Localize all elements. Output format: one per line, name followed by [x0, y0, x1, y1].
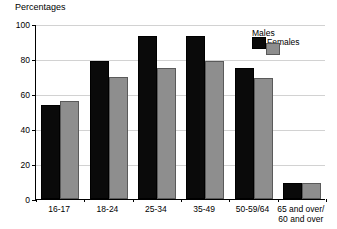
x-tick-label: 50-59/64	[228, 204, 276, 214]
y-tick-label: 40	[21, 126, 30, 135]
bar-males-0	[41, 105, 60, 200]
bar-females-3	[205, 61, 224, 199]
bar-group	[186, 25, 224, 199]
bar-females-1	[109, 77, 128, 200]
bar-females-0	[60, 101, 79, 199]
bar-chart: Percentages 020406080100 16-1718-2425-34…	[0, 0, 337, 229]
x-tick-label: 65 and over/ 60 and over	[277, 204, 325, 224]
bar-group	[41, 25, 79, 199]
bar-group	[138, 25, 176, 199]
x-tick-label: 18-24	[83, 204, 131, 214]
x-tick-label: 16-17	[35, 204, 83, 214]
x-tick-mark	[84, 199, 85, 202]
x-tick-mark	[36, 199, 37, 202]
bar-males-2	[138, 36, 157, 199]
bar-group	[90, 25, 128, 199]
bar-males-1	[90, 61, 109, 199]
chart-legend: Males Females	[252, 28, 330, 54]
bar-females-2	[157, 68, 176, 199]
y-tick-label: 80	[21, 56, 30, 65]
x-tick-label: 25-34	[132, 204, 180, 214]
x-tick-mark	[181, 199, 182, 202]
y-tick-label: 60	[21, 91, 30, 100]
x-tick-mark	[229, 199, 230, 202]
x-tick-mark	[133, 199, 134, 202]
y-tick-label: 100	[16, 21, 30, 30]
x-tick-mark	[278, 199, 279, 202]
x-tick-mark	[326, 199, 327, 202]
x-tick-label: 35-49	[180, 204, 228, 214]
bar-males-4	[235, 68, 254, 199]
legend-swatch-females	[266, 43, 280, 55]
y-tick-label: 20	[21, 161, 30, 170]
bar-males-3	[186, 36, 205, 199]
bar-females-5	[302, 183, 321, 199]
bar-females-4	[254, 78, 273, 199]
bar-males-5	[283, 183, 302, 199]
y-tick-label: 0	[25, 196, 30, 205]
legend-swatch-males	[252, 37, 266, 49]
chart-title: Percentages	[15, 2, 66, 13]
